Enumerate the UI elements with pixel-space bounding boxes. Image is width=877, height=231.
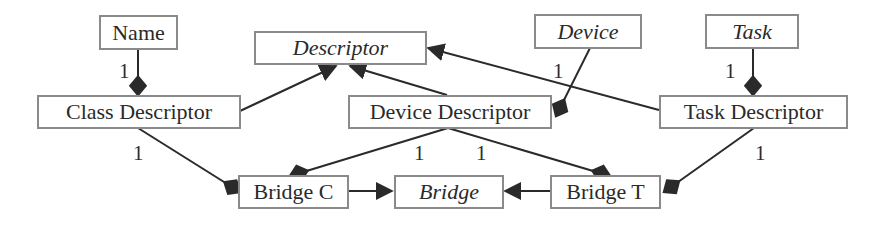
class-box-class-descriptor: Class Descriptor <box>37 95 241 129</box>
class-label: Class Descriptor <box>66 101 212 123</box>
multiplicity-label: 1 <box>725 61 736 82</box>
edge-classdescriptor-descriptor <box>240 66 336 111</box>
class-label: Name <box>112 22 165 44</box>
multiplicity-label: 1 <box>476 143 487 164</box>
class-box-name: Name <box>99 15 178 50</box>
edge-devicedescriptor-descriptor <box>350 66 447 95</box>
class-label: Task Descriptor <box>684 101 824 123</box>
class-box-bridge-c: Bridge C <box>238 175 349 209</box>
uml-diagram: Name Descriptor Device Task Class Descri… <box>0 0 877 231</box>
class-box-device: Device <box>534 14 642 49</box>
class-box-bridge-t: Bridge T <box>550 175 661 209</box>
class-box-task: Task <box>705 14 799 49</box>
class-label: Device Descriptor <box>370 101 531 123</box>
multiplicity-label: 1 <box>133 143 144 164</box>
class-label: Descriptor <box>293 37 388 59</box>
class-label: Bridge <box>419 181 479 203</box>
multiplicity-label: 1 <box>119 61 130 82</box>
edge-devicedescriptor-bridget <box>448 128 610 176</box>
class-label: Bridge C <box>253 181 333 203</box>
class-label: Task <box>732 21 772 43</box>
class-box-bridge: Bridge <box>394 175 504 209</box>
class-label: Bridge T <box>566 181 644 203</box>
class-box-device-descriptor: Device Descriptor <box>348 95 552 129</box>
edge-taskdescriptor-bridget <box>664 128 754 192</box>
multiplicity-label: 1 <box>755 143 766 164</box>
class-label: Device <box>557 21 618 43</box>
multiplicity-label: 1 <box>553 61 564 82</box>
class-box-task-descriptor: Task Descriptor <box>659 95 848 129</box>
multiplicity-label: 1 <box>414 143 425 164</box>
class-box-descriptor: Descriptor <box>254 31 427 65</box>
edge-classdescriptor-bridgec <box>138 128 240 192</box>
